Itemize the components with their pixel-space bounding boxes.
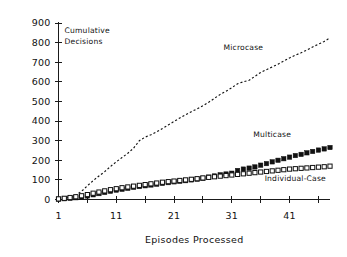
data-point bbox=[120, 186, 124, 190]
data-point bbox=[160, 180, 164, 184]
data-point bbox=[322, 165, 326, 169]
data-point bbox=[299, 166, 303, 170]
data-point bbox=[224, 173, 228, 177]
series-label-individual-case: Individual-Case bbox=[265, 174, 326, 183]
data-point bbox=[235, 172, 239, 176]
data-point bbox=[299, 152, 303, 156]
data-point bbox=[207, 175, 211, 179]
y-tick-label: 400 bbox=[32, 115, 51, 126]
data-point bbox=[178, 178, 182, 182]
x-tick-label: 21 bbox=[168, 210, 181, 221]
y-tick-label: 800 bbox=[32, 37, 51, 48]
data-point bbox=[149, 182, 153, 186]
data-point bbox=[241, 167, 245, 171]
data-point bbox=[328, 145, 332, 149]
data-point bbox=[218, 174, 222, 178]
data-point bbox=[114, 187, 118, 191]
data-point bbox=[293, 153, 297, 157]
x-tick-label: 31 bbox=[226, 210, 239, 221]
data-point bbox=[247, 166, 251, 170]
data-point bbox=[183, 178, 187, 182]
data-point bbox=[310, 149, 314, 153]
data-point bbox=[305, 151, 309, 155]
data-point bbox=[143, 183, 147, 187]
data-point bbox=[97, 190, 101, 194]
data-point bbox=[276, 158, 280, 162]
y-axis-title-line1: Cumulative bbox=[65, 26, 110, 35]
data-point bbox=[253, 171, 257, 175]
data-point bbox=[328, 164, 332, 168]
data-point bbox=[155, 181, 159, 185]
y-tick-label: 0 bbox=[44, 194, 50, 205]
y-tick-label: 700 bbox=[32, 57, 51, 68]
data-point bbox=[247, 171, 251, 175]
data-point bbox=[85, 193, 89, 197]
data-point bbox=[62, 196, 66, 200]
chart-figure: 0100200300400500600700800900 111213141 C… bbox=[0, 0, 347, 257]
data-point bbox=[212, 175, 216, 179]
x-axis-tick-labels: 111213141 bbox=[55, 210, 295, 221]
data-point bbox=[276, 168, 280, 172]
data-point bbox=[258, 163, 262, 167]
series-label-microcase: Microcase bbox=[223, 43, 263, 52]
y-tick-label: 200 bbox=[32, 155, 51, 166]
data-point bbox=[201, 176, 205, 180]
x-axis-title: Episodes Processed bbox=[145, 234, 244, 245]
data-point bbox=[166, 180, 170, 184]
y-tick-label: 300 bbox=[32, 135, 51, 146]
data-point bbox=[241, 172, 245, 176]
data-point bbox=[189, 177, 193, 181]
x-tick-label: 11 bbox=[110, 210, 123, 221]
data-point bbox=[322, 147, 326, 151]
data-point bbox=[293, 167, 297, 171]
data-point bbox=[172, 179, 176, 183]
series-annotations: MicrocaseMulticaseIndividual-Case bbox=[223, 43, 326, 182]
data-point bbox=[270, 160, 274, 164]
data-point bbox=[264, 161, 268, 165]
data-point bbox=[230, 173, 234, 177]
y-axis-title-line2: Decisions bbox=[65, 37, 103, 46]
data-point bbox=[195, 177, 199, 181]
data-point bbox=[253, 165, 257, 169]
data-point bbox=[311, 165, 315, 169]
data-point bbox=[108, 188, 112, 192]
data-point bbox=[287, 155, 291, 159]
y-axis-tick-labels: 0100200300400500600700800900 bbox=[32, 17, 51, 205]
data-point bbox=[56, 197, 60, 201]
y-tick-label: 600 bbox=[32, 76, 51, 87]
data-point bbox=[282, 168, 286, 172]
data-point bbox=[282, 157, 286, 161]
data-point bbox=[287, 167, 291, 171]
data-point bbox=[259, 170, 263, 174]
data-point bbox=[132, 184, 136, 188]
data-point bbox=[305, 166, 309, 170]
y-tick-label: 900 bbox=[32, 17, 51, 28]
x-tick-label: 41 bbox=[283, 210, 296, 221]
data-point bbox=[316, 148, 320, 152]
x-tick-label: 1 bbox=[55, 210, 61, 221]
data-point bbox=[316, 165, 320, 169]
data-point bbox=[137, 183, 141, 187]
data-point bbox=[103, 189, 107, 193]
data-point bbox=[270, 169, 274, 173]
data-point bbox=[91, 191, 95, 195]
data-point bbox=[80, 194, 84, 198]
data-point bbox=[126, 185, 130, 189]
data-point bbox=[68, 195, 72, 199]
y-tick-label: 100 bbox=[32, 174, 51, 185]
data-point bbox=[74, 195, 78, 199]
chart-canvas: 0100200300400500600700800900 111213141 C… bbox=[0, 0, 347, 257]
series-label-multicase: Multicase bbox=[253, 130, 291, 139]
y-tick-label: 500 bbox=[32, 96, 51, 107]
